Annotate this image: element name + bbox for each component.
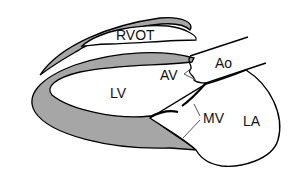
label-rvot: RVOT [116,27,155,43]
label-ao: Ao [215,55,232,71]
heart-diagram: RVOT Ao AV LV MV LA [0,0,292,176]
label-mv: MV [203,110,225,126]
label-av: AV [160,67,178,83]
aorta-upper-wall [190,37,248,56]
label-lv: LV [110,85,127,101]
label-la: LA [243,113,261,129]
